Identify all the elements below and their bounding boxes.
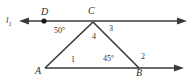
angle-label-2: 2 xyxy=(141,53,145,61)
line-label-l1: l1 xyxy=(6,16,12,27)
ray-ab xyxy=(45,64,184,71)
angle-label-1: 1 xyxy=(71,56,75,64)
angle-label-50-degrees: 50° xyxy=(54,27,65,35)
geometry-diagram: l1 D C A B 50° 4 3 1 45° 2 xyxy=(0,0,192,80)
segment-cb xyxy=(93,22,139,68)
point-label-a: A xyxy=(35,66,41,76)
point-d-dot xyxy=(41,18,46,23)
angle-label-45-degrees: 45° xyxy=(103,55,114,63)
diagram-canvas xyxy=(0,0,192,80)
point-label-c: C xyxy=(88,6,95,16)
line-l1-left-arrowhead xyxy=(19,17,29,24)
angle-label-4: 4 xyxy=(92,33,96,41)
point-label-d: D xyxy=(41,7,48,17)
segment-ac xyxy=(45,22,93,68)
ray-ab-right-arrowhead xyxy=(174,64,184,71)
angle-label-3: 3 xyxy=(109,25,113,33)
line-l1-right-arrowhead xyxy=(177,17,187,24)
point-label-b: B xyxy=(136,68,142,78)
